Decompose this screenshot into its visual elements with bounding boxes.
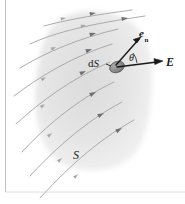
- angle-theta-label: θ: [129, 53, 134, 63]
- physics-flux-figure: dS en E θ S: [0, 0, 185, 204]
- electric-field-label: E: [166, 56, 174, 68]
- surface-label: S: [73, 149, 79, 161]
- surface-element-label: dS: [88, 58, 99, 69]
- figure-canvas: [0, 0, 185, 204]
- unit-normal-label: en: [139, 28, 148, 42]
